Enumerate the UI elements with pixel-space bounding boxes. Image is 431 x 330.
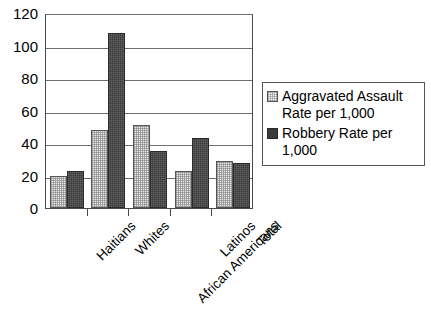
legend-label: Robbery Rate per 1,000 xyxy=(282,125,393,159)
chart-legend: Aggravated Assault Rate per 1,000 Robber… xyxy=(262,82,425,166)
bar xyxy=(91,130,108,208)
legend-item: Robbery Rate per 1,000 xyxy=(267,125,420,159)
plot-area xyxy=(45,14,253,209)
x-axis-label: Haitians xyxy=(94,219,138,263)
y-tick-label: 0 xyxy=(6,201,38,216)
y-tick-label: 20 xyxy=(6,169,38,184)
legend-swatch-robbery xyxy=(267,128,278,139)
bar xyxy=(175,171,192,208)
y-tick-label: 80 xyxy=(6,71,38,86)
x-axis-label: Whites xyxy=(133,219,172,258)
x-tick xyxy=(87,209,88,216)
legend-label: Aggravated Assault Rate per 1,000 xyxy=(282,88,403,122)
y-axis: 020406080100120 xyxy=(4,0,38,330)
bar xyxy=(50,176,67,209)
bar xyxy=(108,33,125,209)
bar xyxy=(192,138,209,208)
x-tick xyxy=(211,209,212,216)
bar xyxy=(67,171,84,208)
legend-item: Aggravated Assault Rate per 1,000 xyxy=(267,88,420,122)
y-tick-label: 120 xyxy=(6,6,38,21)
bar xyxy=(133,125,150,208)
bars-layer xyxy=(46,15,252,208)
legend-swatch-aggravated-assault xyxy=(267,91,278,102)
x-axis-label: Total xyxy=(255,219,285,249)
bar xyxy=(216,161,233,208)
x-tick xyxy=(170,209,171,216)
y-tick-label: 100 xyxy=(6,39,38,54)
bar-chart: 020406080100120 HaitiansWhitesAfrican Am… xyxy=(0,0,431,330)
y-tick-label: 60 xyxy=(6,104,38,119)
x-tick xyxy=(128,209,129,216)
bar xyxy=(150,151,167,208)
bar xyxy=(233,163,250,209)
y-tick-label: 40 xyxy=(6,136,38,151)
